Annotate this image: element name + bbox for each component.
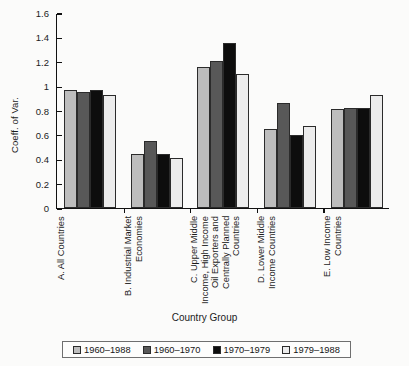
x-axis-tick xyxy=(190,208,191,213)
category-label: E. Low Income Countries xyxy=(322,216,389,304)
bar-group xyxy=(257,14,324,208)
y-tick-label: 0.6 xyxy=(36,129,49,142)
bar xyxy=(303,126,316,208)
bar xyxy=(331,109,344,208)
category-label: B. Industrial Market Economies xyxy=(123,216,190,304)
bar-group xyxy=(57,14,124,208)
category-label: A. All Countries xyxy=(56,216,123,304)
y-tick-label: 0.4 xyxy=(36,153,49,166)
bar-group xyxy=(190,14,257,208)
bar-series-container xyxy=(57,14,389,208)
bar xyxy=(344,108,357,208)
legend-item: 1960–1988 xyxy=(73,345,131,355)
y-tick-label: 1.2 xyxy=(36,56,49,69)
legend-swatch xyxy=(73,346,81,354)
bar xyxy=(223,43,236,208)
x-axis-tick xyxy=(124,208,125,213)
legend-label: 1960–1988 xyxy=(84,345,131,355)
y-tick-label: 1.6 xyxy=(36,7,49,20)
bar xyxy=(210,61,223,208)
y-tick-label: 1 xyxy=(44,80,49,93)
legend-label: 1960–1970 xyxy=(154,345,201,355)
legend-item: 1960–1970 xyxy=(143,345,201,355)
category-label: C. Upper Middle Income, High Income Oil … xyxy=(189,216,256,304)
chart-figure: Coeff. of Var. 00.20.40.60.811.21.41.6 A… xyxy=(0,0,409,366)
bar xyxy=(264,129,277,208)
plot-area: 00.20.40.60.811.21.41.6 xyxy=(56,14,389,209)
bar xyxy=(170,158,183,208)
legend-swatch xyxy=(282,346,290,354)
bar xyxy=(157,154,170,208)
legend-swatch xyxy=(143,346,151,354)
bar xyxy=(277,103,290,208)
bar-group xyxy=(323,14,390,208)
category-label: D. Lower Middle Income Countries xyxy=(256,216,323,304)
legend-swatch xyxy=(213,346,221,354)
legend-item: 1970–1979 xyxy=(213,345,271,355)
y-tick-mark xyxy=(57,208,62,209)
bar xyxy=(357,108,370,208)
bar xyxy=(290,135,303,208)
bar xyxy=(131,154,144,208)
y-axis-title: Coeff. of Var. xyxy=(6,60,22,190)
y-tick-label: 1.4 xyxy=(36,31,49,44)
legend-label: 1979–1988 xyxy=(293,345,340,355)
chart-legend: 1960–19881960–19701970–19791979–1988 xyxy=(62,341,351,358)
bar xyxy=(197,67,210,208)
legend-item: 1979–1988 xyxy=(282,345,340,355)
bar xyxy=(90,90,103,208)
y-tick-label: 0.8 xyxy=(36,105,49,118)
x-axis-tick xyxy=(257,208,258,213)
bar xyxy=(103,95,116,208)
bar xyxy=(236,74,249,208)
bar-group xyxy=(124,14,191,208)
bar xyxy=(144,141,157,208)
bar xyxy=(64,90,77,208)
y-tick-label: 0.2 xyxy=(36,178,49,191)
bar xyxy=(77,92,90,208)
legend-label: 1970–1979 xyxy=(224,345,271,355)
x-axis-tick xyxy=(323,208,324,213)
x-axis-title: Country Group xyxy=(0,312,409,323)
bar xyxy=(370,95,383,208)
y-tick-label: 0 xyxy=(44,202,49,215)
